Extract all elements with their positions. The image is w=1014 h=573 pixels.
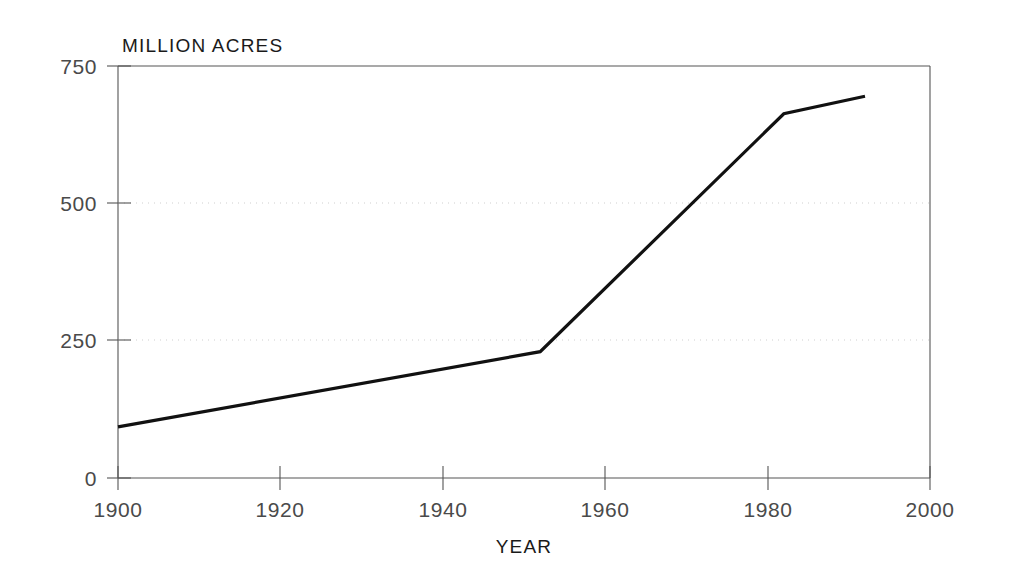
- x-tick-label-1980: 1980: [743, 498, 792, 521]
- y-axis-title: MILLION ACRES: [122, 35, 283, 56]
- x-tick-label-1940: 1940: [418, 498, 467, 521]
- y-tick-label-0: 0: [85, 467, 97, 490]
- y-tick-label-750: 750: [60, 55, 97, 78]
- y-tick-label-250: 250: [60, 329, 97, 352]
- x-tick-label-1960: 1960: [580, 498, 629, 521]
- data-series-line: [118, 96, 865, 427]
- x-tick-label-1920: 1920: [255, 498, 304, 521]
- line-chart: 0 250 500 750 1900 1920 1940 1960 1980 2…: [0, 0, 1014, 573]
- x-axis-title: YEAR: [496, 536, 553, 557]
- chart-figure: 0 250 500 750 1900 1920 1940 1960 1980 2…: [0, 0, 1014, 573]
- x-tick-label-2000: 2000: [905, 498, 954, 521]
- y-tick-label-500: 500: [60, 192, 97, 215]
- x-tick-label-1900: 1900: [93, 498, 142, 521]
